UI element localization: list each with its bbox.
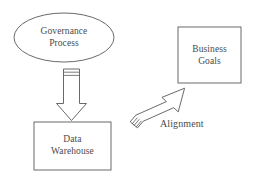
diagram-canvas: Governance Process Business Goals Data W…	[0, 0, 261, 178]
governance-process-label-line2: Process	[14, 38, 114, 50]
business-goals-label: Business Goals	[178, 44, 241, 67]
business-goals-label-line1: Business	[178, 44, 241, 56]
data-warehouse-label-line1: Data	[34, 134, 111, 146]
data-warehouse-label: Data Warehouse	[34, 134, 111, 157]
governance-to-warehouse-arrow[interactable]	[57, 69, 87, 121]
data-warehouse-label-line2: Warehouse	[34, 146, 111, 158]
governance-process-label: Governance Process	[14, 26, 114, 49]
governance-process-label-line1: Governance	[14, 26, 114, 38]
business-goals-label-line2: Goals	[178, 56, 241, 68]
alignment-arrow-label: Alignment	[160, 118, 218, 130]
